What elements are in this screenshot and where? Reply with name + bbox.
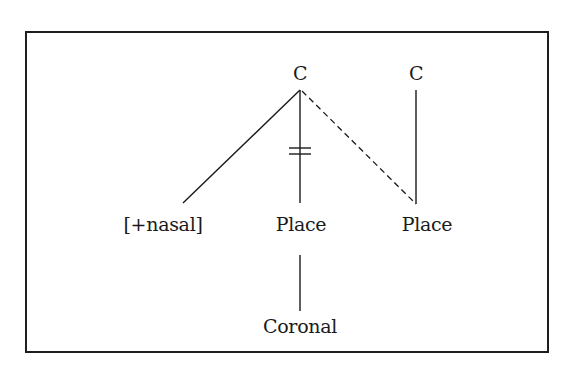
node-coronal-label: Coronal: [263, 317, 337, 336]
edge-c1-nasal: [183, 90, 300, 203]
phonology-tree-lines: [0, 0, 562, 365]
node-place2-label: Place: [402, 215, 453, 234]
node-c2-label: C: [409, 64, 423, 83]
node-nasal-label: [+nasal]: [123, 215, 202, 234]
node-c1-label: C: [293, 64, 307, 83]
edge-c1-place2-dashed: [302, 91, 416, 204]
node-place1-label: Place: [276, 215, 327, 234]
